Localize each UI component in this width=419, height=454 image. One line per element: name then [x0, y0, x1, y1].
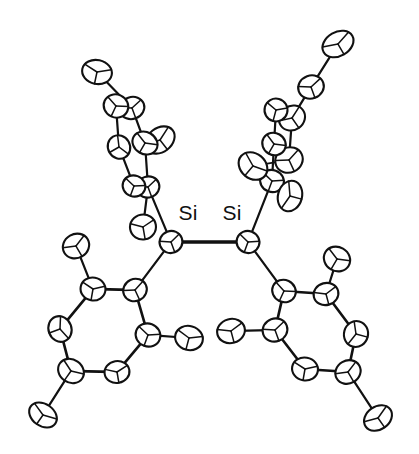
ortep-canvas: SiSi — [0, 0, 419, 454]
si2-label: Si — [222, 201, 241, 224]
ortep-figure: SiSi — [0, 0, 419, 454]
si1-label: Si — [178, 201, 197, 224]
